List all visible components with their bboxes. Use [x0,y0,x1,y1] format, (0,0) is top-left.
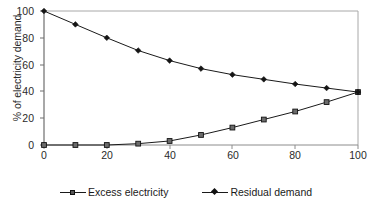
chart-legend: Excess electricity Residual demand [0,186,372,198]
square-marker [261,117,266,122]
square-marker [199,133,204,138]
diamond-marker [167,58,173,64]
diamond-marker-icon [202,187,228,198]
square-marker [136,141,141,146]
series-excess-electricity [42,90,361,148]
diamond-marker [198,66,204,72]
square-marker [73,143,78,148]
legend-item-excess-electricity[interactable]: Excess electricity [60,186,169,198]
diamond-marker [104,35,110,41]
legend-label-excess-electricity: Excess electricity [88,186,169,198]
square-marker [104,143,109,148]
square-marker-icon [60,187,86,198]
series-line [44,11,358,92]
diamond-marker [230,72,236,78]
square-marker [230,125,235,130]
x-axis-ticks [44,145,358,149]
plot-area [0,0,372,207]
diamond-marker [41,8,47,14]
diamond-marker [135,48,141,54]
legend-item-residual-demand[interactable]: Residual demand [202,186,312,198]
legend-label-residual-demand: Residual demand [230,186,312,198]
diamond-marker [261,77,267,83]
data-series-layer [41,8,361,147]
diamond-marker [292,81,298,87]
square-marker [324,100,329,105]
square-marker [42,143,47,148]
square-marker [293,109,298,114]
series-residual-demand [41,8,361,95]
square-marker [167,139,172,144]
diamond-marker [73,22,79,28]
diamond-marker [324,85,330,91]
chart-container: % of electricity demand 100 80 60 40 20 … [0,0,372,207]
